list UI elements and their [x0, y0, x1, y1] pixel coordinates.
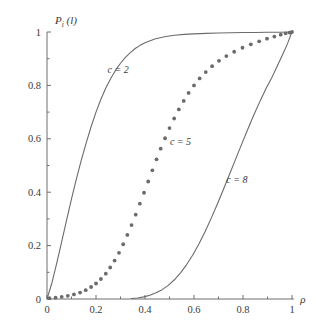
data-point	[172, 117, 176, 121]
x-tick-label: 0	[44, 304, 49, 315]
series-1-line	[47, 32, 292, 299]
data-point	[279, 33, 283, 37]
x-axis-title: ρ	[299, 293, 305, 305]
data-point	[138, 202, 142, 206]
y-tick-label: 0.8	[28, 80, 41, 91]
y-tick-label: 0	[36, 294, 41, 305]
data-point	[150, 168, 154, 172]
series-3-line	[132, 32, 292, 298]
y-tick-label: 0.2	[28, 240, 41, 251]
x-tick-label: 0.2	[89, 304, 102, 315]
data-point	[241, 46, 245, 50]
data-point	[217, 59, 221, 63]
curve-label-2: c = 5	[170, 136, 191, 147]
data-point	[159, 147, 163, 151]
y-tick-label: 0.4	[28, 187, 42, 198]
y-axis-title-arg: (l)	[64, 14, 77, 27]
data-point	[187, 91, 191, 95]
chart-figure: 00.20.40.60.8100.20.40.60.81ρPi (l)c = 2…	[0, 0, 318, 335]
axes	[47, 32, 294, 299]
curves	[47, 30, 294, 300]
data-point	[257, 39, 261, 43]
data-point	[198, 77, 202, 81]
y-axis-title: Pi (l)	[54, 14, 77, 29]
data-point	[272, 35, 276, 39]
data-point	[84, 288, 88, 292]
data-point	[121, 242, 125, 246]
data-point	[134, 213, 138, 217]
data-point	[117, 251, 121, 255]
data-point	[168, 126, 172, 130]
data-point	[249, 42, 253, 46]
data-point	[284, 31, 288, 35]
x-tick-label: 0.8	[236, 304, 249, 315]
data-point	[210, 64, 214, 68]
data-point	[232, 50, 236, 54]
data-point	[224, 54, 228, 58]
data-point	[104, 272, 108, 276]
x-tick-label: 0.4	[138, 304, 152, 315]
data-point	[94, 282, 98, 286]
x-tick-label: 0.6	[187, 304, 200, 315]
data-point	[99, 277, 103, 281]
data-point	[182, 99, 186, 103]
y-tick-label: 0.6	[28, 133, 41, 144]
data-point	[146, 180, 150, 184]
data-point	[108, 266, 112, 270]
data-point	[142, 191, 146, 195]
data-point	[192, 84, 196, 88]
data-point	[204, 70, 208, 74]
data-point	[155, 157, 159, 161]
data-point	[130, 223, 134, 227]
data-point	[163, 136, 167, 140]
data-point	[89, 285, 93, 289]
x-tick-label: 1	[289, 304, 294, 315]
data-point	[66, 294, 70, 298]
data-point	[78, 291, 82, 295]
data-point	[177, 108, 181, 112]
data-point	[60, 295, 64, 299]
curve-label-3: c = 8	[226, 174, 247, 185]
data-point	[113, 259, 117, 263]
data-point	[265, 37, 269, 41]
data-point	[54, 296, 58, 300]
data-point	[125, 233, 129, 237]
chart-labels: 00.20.40.60.8100.20.40.60.81ρPi (l)c = 2…	[28, 14, 306, 315]
data-point	[48, 296, 52, 300]
curve-label-1: c = 2	[107, 64, 128, 75]
series-2-dots	[48, 30, 294, 300]
data-point	[72, 293, 76, 297]
chart-plot: 00.20.40.60.8100.20.40.60.81ρPi (l)c = 2…	[0, 0, 318, 335]
y-tick-label: 1	[36, 27, 41, 38]
